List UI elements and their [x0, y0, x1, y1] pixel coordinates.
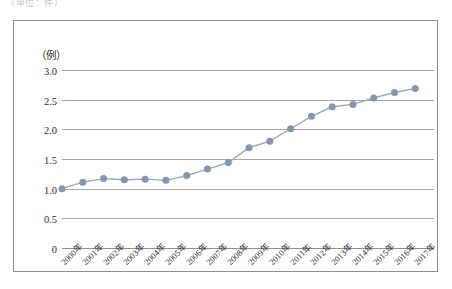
- data-point: [329, 103, 336, 110]
- data-point: [391, 89, 398, 96]
- data-point: [183, 172, 190, 179]
- data-point: [412, 85, 419, 92]
- y-tick-label: 0.5: [44, 214, 57, 225]
- series-line: [62, 88, 415, 188]
- y-tick-label: 2.5: [44, 95, 57, 106]
- data-point: [162, 177, 169, 184]
- plot-area: 00.51.01.52.02.53.0: [62, 70, 434, 248]
- figure-frame: （例） 00.51.01.52.02.53.0 2000年2001年2002年2…: [13, 20, 438, 272]
- data-point: [370, 94, 377, 101]
- data-point: [266, 138, 273, 145]
- y-tick-label: 2.0: [44, 125, 57, 136]
- y-tick-label: 1.5: [44, 155, 57, 166]
- y-tick-label: 3.0: [44, 66, 57, 77]
- data-point: [100, 175, 107, 182]
- data-point: [59, 185, 66, 192]
- x-axis-labels: 2000年2001年2002年2003年2004年2005年2006年2007年…: [62, 250, 434, 289]
- data-point: [246, 144, 253, 151]
- data-point: [308, 113, 315, 120]
- clipped-header-text: （単位：件）: [6, 0, 126, 8]
- data-point: [121, 176, 128, 183]
- data-point: [287, 125, 294, 132]
- y-axis-unit-label: （例）: [36, 47, 66, 62]
- data-point: [204, 166, 211, 173]
- line-series: [62, 70, 434, 248]
- y-tick-label: 1.0: [44, 184, 57, 195]
- y-tick-label: 0: [52, 244, 57, 255]
- data-point: [349, 101, 356, 108]
- data-point: [225, 159, 232, 166]
- data-point: [142, 176, 149, 183]
- data-point: [79, 179, 86, 186]
